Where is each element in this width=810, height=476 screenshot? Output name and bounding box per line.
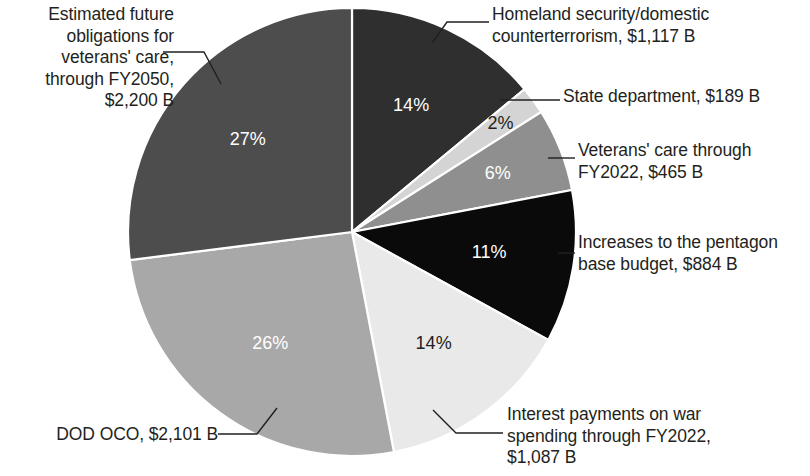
percent-label-dod-oco: 26% xyxy=(252,333,288,353)
percent-label-pentagon-base-budget: 11% xyxy=(472,242,507,262)
percent-label-state-department: 2% xyxy=(488,113,514,133)
callout-label-dod-oco: DOD OCO, $2,101 B xyxy=(10,424,218,446)
percent-label-future-veterans-obligations: 27% xyxy=(230,129,266,149)
pie-slices xyxy=(128,8,576,456)
pie-chart-figure: 14% 2% 6% 11% 14% 26% 27% Estimated futu… xyxy=(0,0,810,476)
percent-label-interest-payments: 14% xyxy=(416,333,452,353)
percent-label-veterans-care-fy2022: 6% xyxy=(485,163,511,183)
callout-label-interest-payments: Interest payments on war spending throug… xyxy=(507,404,807,469)
callout-label-state-department: State department, $189 B xyxy=(563,86,810,108)
callout-label-future-veterans-obligations: Estimated future obligations for veteran… xyxy=(2,4,174,112)
callout-label-homeland-security: Homeland security/domestic counterterror… xyxy=(492,4,810,47)
percent-label-homeland-security: 14% xyxy=(393,95,429,115)
callout-label-veterans-care-fy2022: Veterans' care through FY2022, $465 B xyxy=(578,140,810,183)
callout-label-pentagon-base-budget: Increases to the pentagon base budget, $… xyxy=(578,232,810,275)
